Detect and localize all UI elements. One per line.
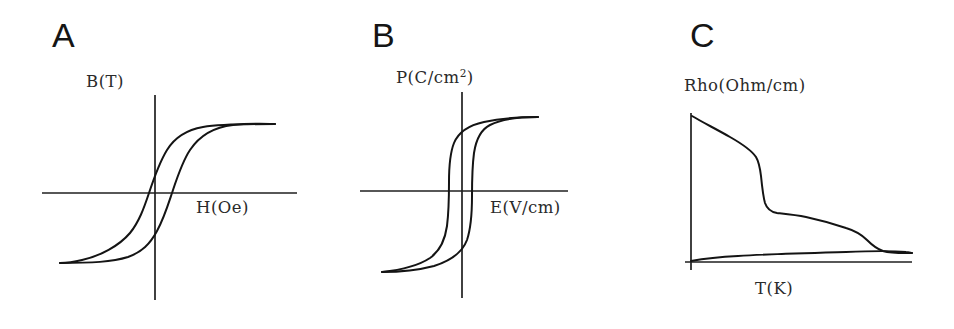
panel-c-upper-resistivity-curve	[692, 116, 912, 253]
panel-b-descending-branch	[382, 117, 538, 272]
panel-c-lower-baseline-curve	[691, 251, 912, 261]
figure-root: A B(T) H(Oe) B P(C/cm2) E(V/cm)	[0, 0, 954, 329]
panel-b-ascending-branch	[382, 117, 538, 272]
panel-a: A B(T) H(Oe)	[0, 0, 320, 329]
panel-c-plot	[640, 0, 954, 329]
panel-a-plot	[0, 0, 320, 329]
panel-b-plot	[320, 0, 640, 329]
panel-c: C Rho(Ohm/cm) T(K)	[640, 0, 954, 329]
panel-b: B P(C/cm2) E(V/cm)	[320, 0, 640, 329]
